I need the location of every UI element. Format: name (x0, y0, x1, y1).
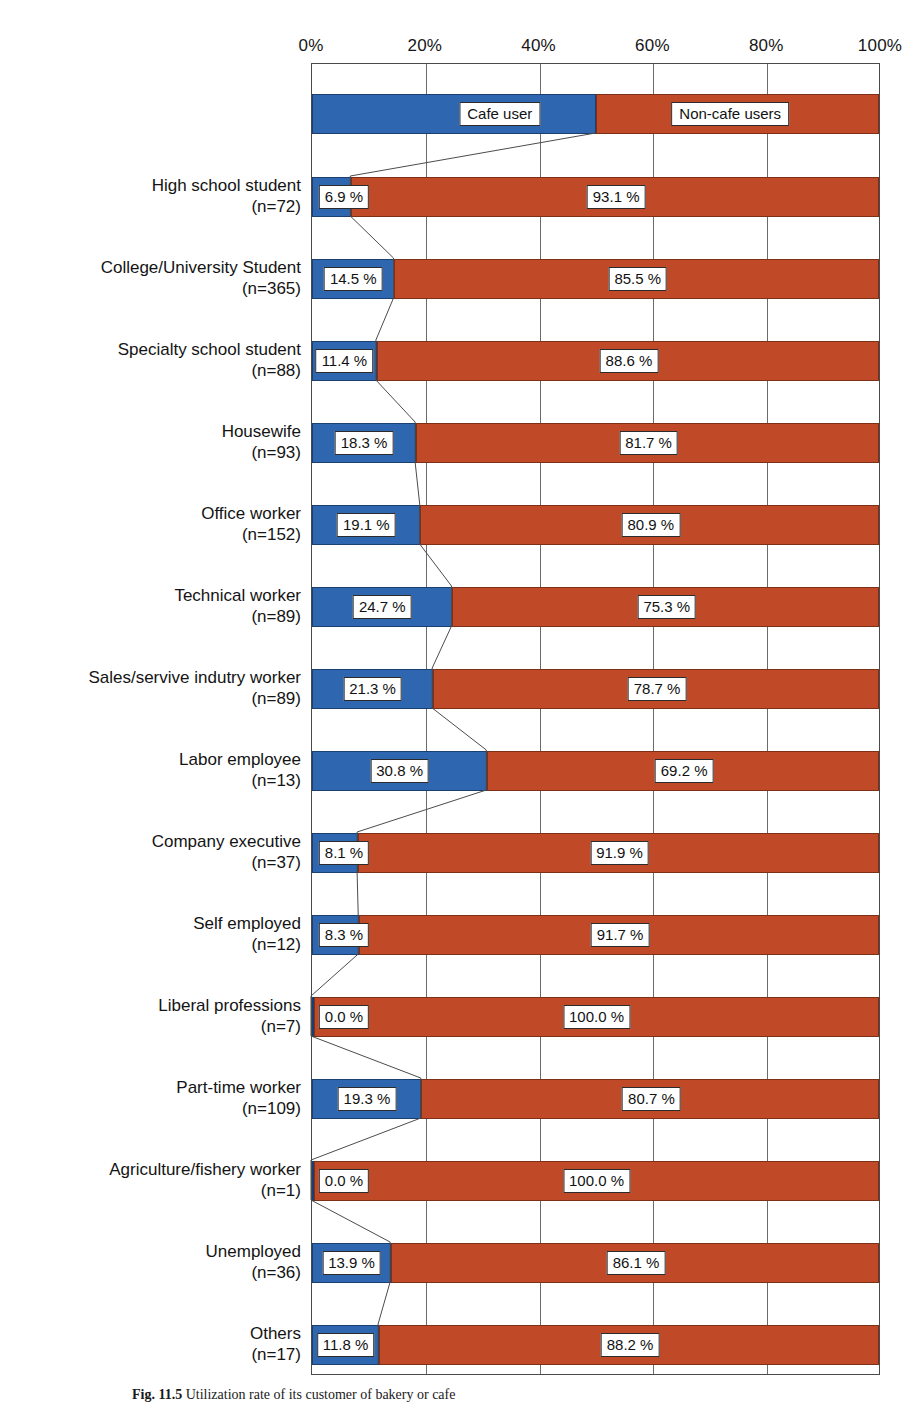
value-label-noncafe-1: 85.5 % (608, 267, 667, 291)
plot-area: Cafe userNon-cafe users6.9 %93.1 %14.5 %… (311, 63, 880, 1375)
value-label-cafe-6: 21.3 % (343, 677, 402, 701)
category-sample-size: (n=89) (11, 606, 301, 627)
bar-row-13 (312, 1243, 879, 1283)
category-label-4: Office worker(n=152) (11, 503, 311, 545)
category-sample-size: (n=37) (11, 852, 301, 873)
bar-row-2 (312, 341, 879, 381)
x-axis-tick-labels: 0%20%40%60%80%100% (0, 36, 921, 60)
category-sample-size: (n=72) (11, 196, 301, 217)
category-label-13: Unemployed(n=36) (11, 1241, 311, 1283)
category-name: Labor employee (179, 750, 301, 769)
category-sample-size: (n=13) (11, 770, 301, 791)
value-label-cafe-14: 11.8 % (317, 1333, 375, 1357)
bar-row-3 (312, 423, 879, 463)
x-tick-label-60: 60% (635, 36, 670, 56)
value-label-cafe-11: 19.3 % (338, 1087, 397, 1111)
value-label-noncafe-6: 78.7 % (628, 677, 687, 701)
category-name: Office worker (201, 504, 301, 523)
category-label-12: Agriculture/fishery worker(n=1) (11, 1159, 311, 1201)
bar-row-11 (312, 1079, 879, 1119)
value-label-noncafe-7: 69.2 % (655, 759, 714, 783)
category-name: Housewife (222, 422, 301, 441)
category-label-11: Part-time worker(n=109) (11, 1077, 311, 1119)
category-sample-size: (n=36) (11, 1262, 301, 1283)
category-sample-size: (n=12) (11, 934, 301, 955)
category-label-1: College/University Student(n=365) (11, 257, 311, 299)
category-name: Others (250, 1324, 301, 1343)
value-label-cafe-12: 0.0 % (319, 1169, 369, 1193)
value-label-noncafe-10: 100.0 % (563, 1005, 630, 1029)
category-name: Self employed (193, 914, 301, 933)
category-name: Company executive (152, 832, 301, 851)
category-label-2: Specialty school student(n=88) (11, 339, 311, 381)
value-label-cafe-8: 8.1 % (319, 841, 369, 865)
category-sample-size: (n=7) (11, 1016, 301, 1037)
value-label-noncafe-9: 91.7 % (591, 923, 650, 947)
value-label-noncafe-11: 80.7 % (622, 1087, 681, 1111)
value-label-noncafe-8: 91.9 % (590, 841, 649, 865)
value-label-cafe-0: 6.9 % (319, 185, 369, 209)
category-label-0: High school student(n=72) (11, 175, 311, 217)
category-label-7: Labor employee(n=13) (11, 749, 311, 791)
value-label-noncafe-5: 75.3 % (637, 595, 696, 619)
category-label-10: Liberal professions(n=7) (11, 995, 311, 1037)
category-label-3: Housewife(n=93) (11, 421, 311, 463)
value-label-cafe-9: 8.3 % (319, 923, 369, 947)
category-sample-size: (n=365) (11, 278, 301, 299)
value-label-noncafe-14: 88.2 % (601, 1333, 660, 1357)
caption-body: Utilization rate of its customer of bake… (186, 1387, 456, 1402)
x-tick-label-80: 80% (749, 36, 784, 56)
value-label-cafe-3: 18.3 % (335, 431, 394, 455)
value-label-cafe-10: 0.0 % (319, 1005, 369, 1029)
category-sample-size: (n=93) (11, 442, 301, 463)
value-label-cafe-5: 24.7 % (353, 595, 412, 619)
value-label-noncafe-0: 93.1 % (587, 185, 646, 209)
value-label-noncafe-2: 88.6 % (600, 349, 659, 373)
category-name: Technical worker (174, 586, 301, 605)
bar-row-14 (312, 1325, 879, 1365)
value-label-cafe-13: 13.9 % (322, 1251, 381, 1275)
value-label-cafe-2: 11.4 % (316, 349, 374, 373)
x-tick-label-20: 20% (407, 36, 442, 56)
legend-bar (312, 94, 879, 134)
category-name: Agriculture/fishery worker (109, 1160, 301, 1179)
figure-caption: Fig. 11.5 Utilization rate of its custom… (132, 1386, 832, 1411)
category-sample-size: (n=88) (11, 360, 301, 381)
category-label-14: Others(n=17) (11, 1323, 311, 1365)
category-label-9: Self employed(n=12) (11, 913, 311, 955)
category-sample-size: (n=17) (11, 1344, 301, 1365)
bar-segment-cafe (312, 94, 596, 134)
x-tick-label-40: 40% (521, 36, 556, 56)
category-name: Liberal professions (158, 996, 301, 1015)
category-name: Unemployed (206, 1242, 301, 1261)
value-label-noncafe-4: 80.9 % (621, 513, 680, 537)
x-tick-label-100: 100% (858, 36, 902, 56)
figure-container: 0%20%40%60%80%100% Cafe userNon-cafe use… (0, 0, 921, 1411)
caption-figure-number: Fig. 11.5 (132, 1387, 182, 1402)
category-label-5: Technical worker(n=89) (11, 585, 311, 627)
category-name: Specialty school student (118, 340, 301, 359)
value-label-noncafe-3: 81.7 % (619, 431, 678, 455)
value-label-noncafe-12: 100.0 % (563, 1169, 630, 1193)
category-label-8: Company executive(n=37) (11, 831, 311, 873)
legend-label-noncafe: Non-cafe users (671, 102, 789, 126)
category-name: College/University Student (101, 258, 301, 277)
category-name: High school student (152, 176, 301, 195)
bar-row-1 (312, 259, 879, 299)
category-name: Part-time worker (176, 1078, 301, 1097)
legend-label-cafe: Cafe user (459, 102, 540, 126)
value-label-noncafe-13: 86.1 % (607, 1251, 666, 1275)
value-label-cafe-4: 19.1 % (337, 513, 396, 537)
value-label-cafe-1: 14.5 % (324, 267, 383, 291)
category-name: Sales/servive indutry worker (88, 668, 301, 687)
category-sample-size: (n=152) (11, 524, 301, 545)
x-tick-label-0: 0% (299, 36, 324, 56)
category-sample-size: (n=109) (11, 1098, 301, 1119)
category-sample-size: (n=89) (11, 688, 301, 709)
bar-row-4 (312, 505, 879, 545)
value-label-cafe-7: 30.8 % (370, 759, 429, 783)
category-sample-size: (n=1) (11, 1180, 301, 1201)
category-label-6: Sales/servive indutry worker(n=89) (11, 667, 311, 709)
